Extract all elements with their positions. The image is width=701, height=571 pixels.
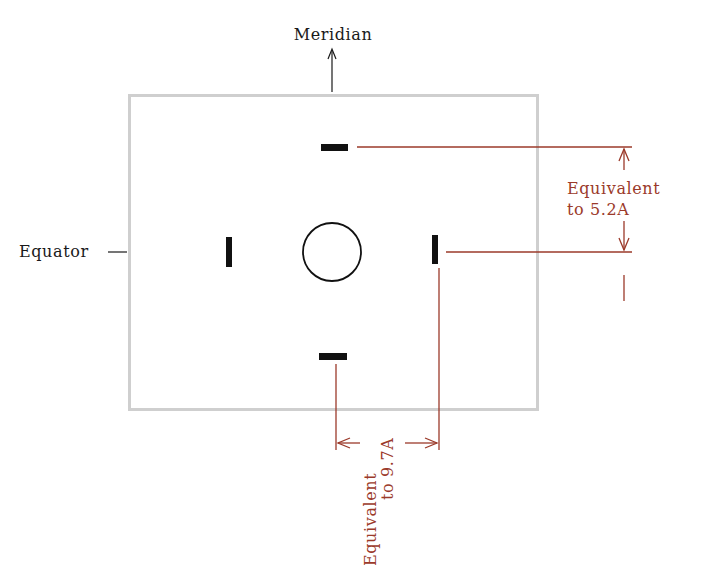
reflection-mark-right xyxy=(432,235,438,264)
vertical-spacing-label-line2: to 5.2A xyxy=(567,200,629,219)
meridian-label: Meridian xyxy=(294,25,373,44)
vertical-spacing-label-line1: Equivalent xyxy=(567,179,660,198)
horizontal-spacing-dimension xyxy=(336,268,439,450)
diagram-canvas: Meridian Equator Equivalent to 5.2A Equi… xyxy=(0,0,701,571)
vertical-spacing-dimension xyxy=(357,147,632,301)
reflection-mark-left xyxy=(226,237,232,267)
equator-label: Equator xyxy=(19,242,89,261)
center-circle xyxy=(303,223,361,281)
horizontal-spacing-label-line2: to 9.7A xyxy=(378,438,397,500)
reflection-mark-bottom xyxy=(319,353,347,360)
meridian-arrow-icon xyxy=(328,49,336,92)
reflection-mark-top xyxy=(321,144,348,151)
